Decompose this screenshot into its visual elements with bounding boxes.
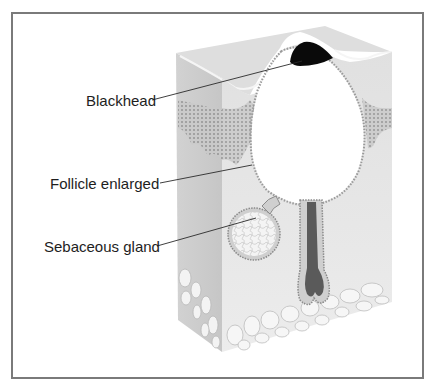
- label-sebaceous-gland: Sebaceous gland: [44, 239, 160, 254]
- block-side-face: [176, 53, 222, 352]
- label-blackhead: Blackhead: [86, 93, 156, 108]
- skin-diagram: [0, 0, 433, 392]
- label-follicle-enlarged: Follicle enlarged: [50, 176, 159, 191]
